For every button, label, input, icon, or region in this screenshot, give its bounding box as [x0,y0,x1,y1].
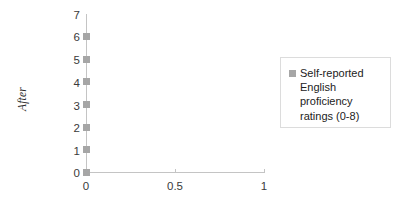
y-tick-label: 7 [62,9,80,21]
y-tick-label: 5 [62,54,80,66]
y-axis-title: After [16,69,28,129]
data-point[interactable] [83,78,90,85]
y-tick-label: 4 [62,77,80,89]
x-tick-mark [175,169,176,173]
x-tick-mark [264,169,265,173]
data-point[interactable] [83,56,90,63]
legend-label: Self-reported English proficiency rating… [300,66,385,123]
chart-legend[interactable]: Self-reported English proficiency rating… [280,57,391,128]
legend-swatch-icon [289,70,296,77]
data-point[interactable] [83,124,90,131]
chart-container: After 7 6 5 4 3 2 1 0 0 0.5 1 Self-repor… [0,0,402,214]
x-tick-label: 0.5 [155,180,195,192]
data-point[interactable] [83,146,90,153]
y-tick-label: 0 [62,167,80,179]
y-tick-label: 3 [62,100,80,112]
y-tick-label: 1 [62,145,80,157]
data-point[interactable] [83,169,90,176]
data-point[interactable] [83,101,90,108]
x-tick-label: 1 [244,180,284,192]
y-tick-label: 2 [62,122,80,134]
x-tick-label: 0 [66,180,106,192]
data-point[interactable] [83,33,90,40]
y-tick-label: 6 [62,31,80,43]
